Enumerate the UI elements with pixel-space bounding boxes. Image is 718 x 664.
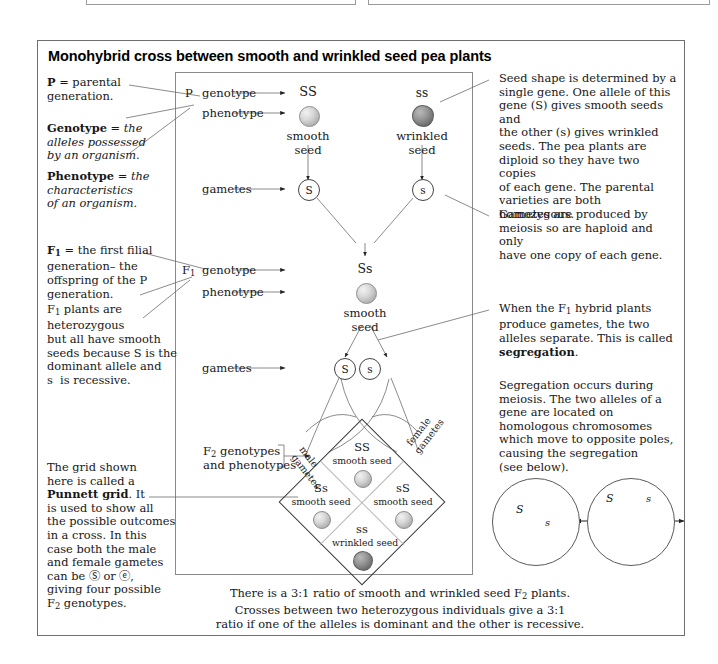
meiosis-circle-paired (492, 478, 580, 566)
f1-genotype-label: genotype (202, 263, 256, 277)
meiosis-left-allele-S: S (516, 503, 524, 516)
note-genotype-definition: Genotype = thealleles possessedby an org… (47, 122, 175, 163)
f1-gamete-right: s (359, 358, 381, 380)
p-genotype-label: genotype (202, 86, 256, 100)
bottom-caption: There is a 3:1 ratio of smooth and wrink… (190, 586, 610, 631)
f1-genotype-value: Ss (345, 261, 385, 276)
f1-phenotype-label: phenotype (202, 285, 264, 299)
f1-generation-row-label: F1 (182, 263, 195, 278)
f1-gamete-left: S (334, 358, 356, 380)
p-parent-right-genotype: ss (402, 86, 442, 100)
caption-line-3: ratio if one of the alleles is dominant … (216, 617, 584, 631)
f1-gametes-label: gametes (202, 361, 252, 375)
caption-line-2: Crosses between two heterozygous individ… (235, 603, 566, 617)
meiosis-left-allele-s: s (545, 517, 550, 528)
p-parent-right-phenotype-line1: wrinkled (396, 129, 448, 143)
p-phenotype-label: phenotype (202, 106, 264, 120)
p-gametes-label: gametes (202, 182, 252, 196)
caption-line-1: There is a 3:1 ratio of smooth and wrink… (230, 586, 570, 600)
punnett-seed-right-smooth (395, 511, 413, 529)
p-parent-left-gamete: S (298, 179, 320, 201)
p-parent-right-seed-wrinkled (412, 105, 434, 127)
meiosis-right-allele-s: s (646, 493, 651, 504)
f2-label-line2: and phenotypes (203, 458, 296, 472)
p-parent-left-phenotype-line2: seed (283, 143, 333, 157)
note-f1-heterozygous: F1 plants areheterozygousbut all have sm… (47, 303, 187, 387)
p-parent-left-genotype: SS (288, 84, 328, 99)
note-meiosis-detail: Segregation occurs duringmeiosis. The tw… (499, 379, 679, 474)
f1-phenotype-line1: smooth (340, 306, 390, 320)
previous-page-box-right (368, 0, 710, 5)
p-generation-row-label: P (185, 86, 193, 100)
note-punnett-grid: The grid shownhere is called aPunnett gr… (47, 461, 187, 613)
page-title: Monohybrid cross between smooth and wrin… (48, 48, 648, 64)
previous-page-box-left (86, 0, 356, 5)
meiosis-circle-separated (587, 478, 675, 566)
p-parent-right-gamete: s (412, 179, 434, 201)
p-parent-left-phenotype-line1: smooth (283, 129, 333, 143)
p-parent-right-phenotype-line2: seed (396, 143, 448, 157)
note-seed-shape-gene: Seed shape is determined by asingle gene… (499, 72, 679, 222)
note-phenotype-definition: Phenotype = thecharacteristicsof an orga… (47, 170, 175, 211)
f2-label-line1: F2 genotypes (203, 444, 280, 459)
note-f1-definition: F1 = the first filialgeneration– theoffs… (47, 244, 179, 301)
f1-seed-smooth (356, 283, 377, 304)
note-segregation: When the F1 hybrid plantsproduce gametes… (499, 302, 679, 359)
f1-phenotype-line2: seed (340, 320, 390, 334)
note-gametes-meiosis: Gametes are produced bymeiosis so are ha… (499, 208, 679, 262)
punnett-result-bottom: ss wrinkled seed (332, 522, 392, 548)
p-parent-left-seed-smooth (299, 106, 320, 127)
punnett-result-right: sS smooth seed (373, 481, 433, 507)
punnett-seed-top-smooth (354, 470, 372, 488)
punnett-seed-left-smooth (313, 511, 331, 529)
note-p-generation: P = parentalgeneration. (47, 76, 167, 103)
punnett-seed-bottom-wrinkled (353, 551, 373, 571)
meiosis-right-allele-S: S (606, 492, 614, 505)
punnett-result-top: SS smooth seed (332, 440, 392, 466)
